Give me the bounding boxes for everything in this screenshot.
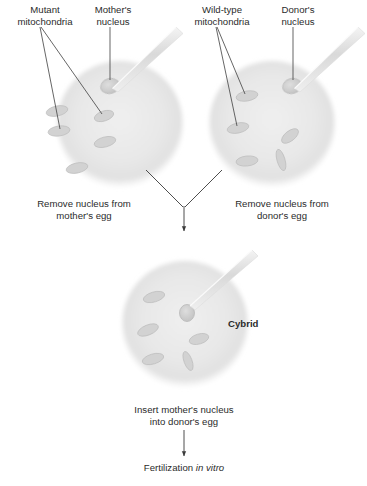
caption-remove-mother-line2: mother's egg (8, 210, 160, 222)
caption-remove-donor: Remove nucleus from donor's egg (206, 198, 358, 221)
caption-fertilization-italic: in vitro (196, 462, 224, 473)
caption-insert-line1: Insert mother's nucleus (98, 404, 270, 416)
label-mothers-nucleus-line2: nucleus (72, 16, 154, 28)
donors-egg-cell (209, 61, 335, 187)
caption-fertilization: Fertilization in vitro (98, 462, 270, 474)
caption-insert-line2: into donor's egg (98, 416, 270, 428)
cybrid-diagram: Mutant mitochondria Mother's nucleus Wil… (0, 0, 367, 486)
label-mothers-nucleus-line1: Mother's (72, 4, 154, 16)
label-donors-nucleus: Donor's nucleus (258, 4, 338, 27)
label-donors-nucleus-line1: Donor's (258, 4, 338, 16)
caption-insert-nucleus: Insert mother's nucleus into donor's egg (98, 404, 270, 427)
caption-remove-mother: Remove nucleus from mother's egg (8, 198, 160, 221)
label-wildtype-mitochondria-line1: Wild-type (176, 4, 268, 16)
caption-fertilization-prefix: Fertilization (144, 462, 196, 473)
donors-egg-membrane (209, 61, 335, 187)
label-wildtype-mitochondria-line2: mitochondria (176, 16, 268, 28)
caption-remove-donor-line2: donor's egg (206, 210, 358, 222)
label-wildtype-mitochondria: Wild-type mitochondria (176, 4, 268, 27)
label-mothers-nucleus: Mother's nucleus (72, 4, 154, 27)
caption-remove-mother-line1: Remove nucleus from (8, 198, 160, 210)
label-donors-nucleus-line2: nucleus (258, 16, 338, 28)
mothers-egg-cell (45, 61, 183, 187)
pipette-donor (295, 27, 366, 92)
label-cybrid: Cybrid (228, 318, 298, 330)
caption-remove-donor-line1: Remove nucleus from (206, 198, 358, 210)
